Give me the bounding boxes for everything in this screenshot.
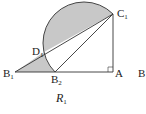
label-D1: D1 (32, 45, 44, 59)
label-C1: C1 (117, 7, 128, 21)
right-angle-mark (108, 67, 113, 72)
label-B1: B1 (3, 67, 14, 81)
geometry-figure: C1 D1 B1 B2 A B R1 (0, 0, 146, 114)
label-B2: B2 (51, 73, 62, 87)
label-B: B (138, 67, 145, 79)
figure-caption: R1 (55, 91, 67, 106)
shaded-segment (43, 2, 113, 52)
label-A: A (115, 67, 123, 79)
